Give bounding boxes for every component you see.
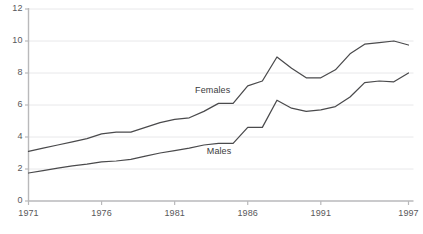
x-tick-label: 1981 [155,208,195,218]
series-label-males: Males [207,146,232,156]
line-chart: 024681012 197119761981198619911997 Femal… [0,0,423,234]
x-tick-label: 1971 [9,208,49,218]
y-tick-label: 12 [3,3,23,13]
series-label-females: Females [195,85,230,95]
y-tick-label: 10 [3,35,23,45]
y-tick-label: 8 [3,67,23,77]
y-tick-label: 4 [3,131,23,141]
y-tick-label: 0 [3,195,23,205]
x-tick-label: 1991 [301,208,341,218]
chart-plot-area [0,0,423,234]
x-tick-label: 1986 [228,208,268,218]
y-tick-label: 2 [3,163,23,173]
x-tick-label: 1997 [389,208,423,218]
x-tick-label: 1976 [82,208,122,218]
y-tick-label: 6 [3,99,23,109]
